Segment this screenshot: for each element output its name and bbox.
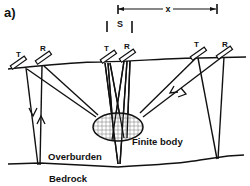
offset-label: x: [165, 4, 170, 14]
panel-label: a): [4, 5, 16, 20]
transmitter-label: T: [104, 44, 109, 53]
ray-right-to-body-1: [140, 58, 196, 113]
bedrock-label: Bedrock: [49, 173, 88, 184]
ray-right-up: [218, 57, 224, 159]
spacing-s-marker: S: [107, 19, 132, 33]
ray-paths: [26, 57, 224, 165]
spacing-label: S: [117, 19, 123, 29]
diagram-canvas: a) x S T R T R T R: [0, 0, 250, 186]
arrow-incoming-icon: [170, 86, 178, 93]
offset-x-dimension: x: [118, 4, 217, 14]
receiver-label: R: [124, 42, 130, 51]
ray-left-to-body-2: [44, 66, 98, 115]
transmitter-label: T: [16, 50, 21, 59]
receiver-antenna-icon: [35, 51, 51, 64]
bedrock-interface-line: [8, 155, 244, 167]
overburden-label: Overburden: [48, 151, 102, 162]
gpr-survey-diagram: a) x S T R T R T R: [0, 0, 250, 186]
receiver-label: R: [40, 44, 46, 53]
finite-body-label: Finite body: [132, 136, 183, 147]
arrow-down-icon: [29, 108, 37, 116]
ray-left-down: [26, 68, 38, 165]
transmitter-label: T: [194, 40, 199, 49]
ray-right-to-body-2: [143, 57, 222, 117]
ray-left-to-body-1: [27, 69, 96, 117]
receiver-label: R: [222, 40, 228, 49]
ray-right-down: [198, 58, 217, 159]
antenna-pair-center: T R: [100, 42, 135, 63]
